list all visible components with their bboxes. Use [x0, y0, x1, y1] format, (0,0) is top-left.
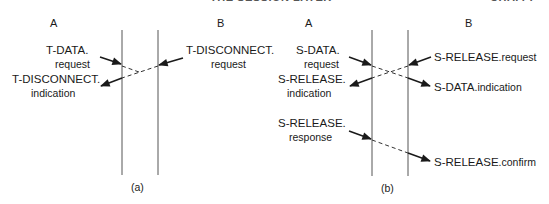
a-tdisconnect-ind-label-2: indication [31, 87, 75, 99]
a-tdata-label-1: T-DATA. [46, 44, 88, 57]
a-tdisconnect-indication-arrow [101, 78, 122, 86]
b-srelease-response-arrow [349, 131, 371, 139]
b-sdata-ind-suffix: .indication [474, 81, 521, 93]
b-sdata-req-label-2: request [304, 58, 339, 70]
a-tdisconnect-req-label-1: T-DISCONNECT. [186, 44, 274, 57]
b-sdata-ind-main: S-DATA [434, 81, 474, 93]
b-sdata-ind-label: S-DATA.indication [434, 81, 522, 94]
b-sdata-req-label-1: S-DATA. [296, 44, 340, 57]
a-party-left: A [50, 17, 57, 29]
b-sdata-dashed [372, 66, 408, 78]
b-caption: (b) [381, 182, 394, 194]
a-tdisconnect-req-label-2: request [211, 58, 246, 70]
b-srelease-req-suffix: .request [499, 51, 537, 63]
b-srelease-confirm-label: S-RELEASE.confirm [434, 156, 536, 169]
a-tdisconnect-ind-label-1: T-DISCONNECT. [12, 73, 100, 86]
a-tdisconnect-request-arrow [159, 58, 183, 65]
a-tdata-request-arrow [100, 57, 121, 64]
b-srelease-confirm-suffix: .confirm [499, 156, 536, 168]
b-srelease-ind-label-1: S-RELEASE. [278, 73, 346, 86]
b-srelease-response-dashed [372, 140, 408, 153]
b-srelease-confirm-main: S-RELEASE [434, 156, 499, 168]
a-party-right: B [217, 17, 224, 29]
b-srelease-resp-label-2: response [289, 131, 332, 143]
a-tdata-dashed [122, 66, 139, 72]
b-party-left: A [305, 17, 312, 29]
b-srelease-indication-arrow [350, 78, 372, 86]
b-srelease-dashed [372, 66, 408, 78]
b-srelease-request-arrow [409, 57, 431, 65]
b-srelease-confirm-arrow [408, 153, 430, 161]
b-srelease-resp-label-1: S-RELEASE. [278, 117, 346, 130]
time-sequence-diagrams [0, 0, 549, 204]
b-party-right: B [465, 17, 472, 29]
a-tdata-label-2: request [55, 58, 90, 70]
b-srelease-ind-label-2: indication [287, 87, 331, 99]
a-tdisconnect-dashed [122, 66, 158, 78]
b-srelease-req-main: S-RELEASE [434, 51, 499, 63]
b-srelease-req-label: S-RELEASE.request [434, 51, 537, 64]
a-caption: (a) [131, 181, 144, 193]
b-sdata-request-arrow [349, 57, 371, 65]
b-sdata-indication-arrow [408, 78, 430, 86]
